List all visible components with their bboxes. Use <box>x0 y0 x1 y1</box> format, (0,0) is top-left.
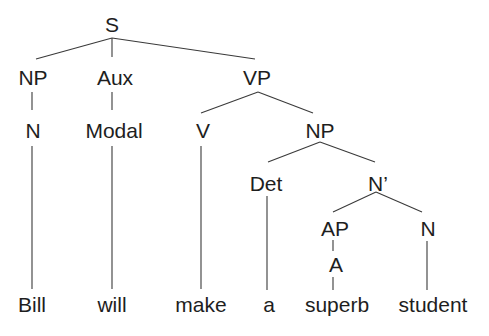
node-n-object: N <box>420 218 435 240</box>
node-v: V <box>196 120 210 142</box>
word-a: a <box>263 294 275 316</box>
tree-edges <box>0 0 489 336</box>
node-ap: AP <box>321 218 349 240</box>
node-vp: VP <box>243 67 271 89</box>
node-n-subject: N <box>25 120 40 142</box>
node-modal: Modal <box>85 120 142 142</box>
edge-nbar-ap <box>333 192 376 212</box>
edge-nbar-n <box>376 192 422 212</box>
edge-vp-v <box>201 92 258 113</box>
word-superb: superb <box>305 294 369 316</box>
word-make: make <box>175 294 226 316</box>
node-np-object: NP <box>305 120 334 142</box>
node-aux: Aux <box>97 67 133 89</box>
edge-s-vp <box>112 38 255 59</box>
node-a: A <box>329 254 343 276</box>
edge-np-nbar <box>320 142 375 162</box>
syntax-tree: S NP Aux VP N Modal V NP Det N’ AP N A B… <box>0 0 489 336</box>
node-s: S <box>105 14 119 36</box>
node-np-subject: NP <box>18 67 47 89</box>
edge-s-np <box>36 38 112 59</box>
node-det: Det <box>250 173 283 195</box>
edge-vp-np <box>258 92 313 113</box>
edge-np-det <box>268 142 320 162</box>
word-student: student <box>399 294 468 316</box>
word-will: will <box>97 294 126 316</box>
word-bill: Bill <box>18 294 46 316</box>
node-n-bar: N’ <box>368 173 388 195</box>
